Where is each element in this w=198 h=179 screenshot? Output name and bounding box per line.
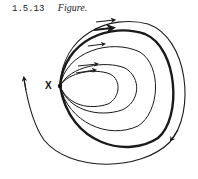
arrow-icon: [88, 44, 104, 46]
arrow-icon: [96, 20, 114, 22]
fixed-point-dot: [58, 84, 62, 88]
point-label: X: [45, 80, 52, 91]
orbit-diagram: [0, 0, 198, 179]
arrow-icon: [171, 130, 178, 140]
orbit-3: [60, 44, 156, 131]
orbit-4: [60, 28, 173, 147]
